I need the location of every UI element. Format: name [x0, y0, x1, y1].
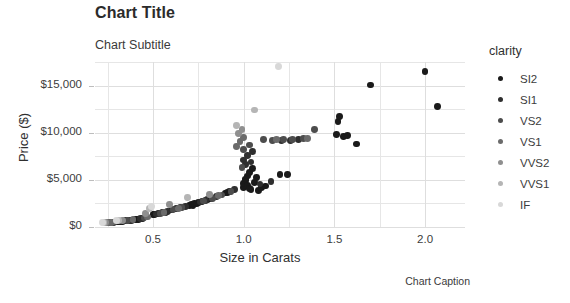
legend-item-si1[interactable]: SI1: [489, 89, 569, 110]
data-point: [353, 141, 360, 148]
legend-swatch-icon: [498, 139, 503, 144]
data-point: [113, 217, 120, 224]
data-point: [268, 178, 275, 185]
x-tick-label: 2.0: [403, 233, 447, 245]
gridline-horizontal: [95, 86, 465, 87]
legend-item-vs1[interactable]: VS1: [489, 131, 569, 152]
y-axis-label: Price ($): [16, 93, 31, 183]
data-point: [367, 82, 374, 89]
legend-item-label: SI1: [520, 94, 537, 106]
legend-swatch-icon: [498, 202, 503, 207]
legend-item-si2[interactable]: SI2: [489, 68, 569, 89]
x-tick-label: 1.5: [312, 233, 356, 245]
legend-swatch-icon: [498, 97, 503, 102]
data-point: [175, 205, 182, 212]
data-point: [280, 136, 287, 143]
data-point: [184, 194, 191, 201]
legend-swatch-icon: [498, 76, 503, 81]
data-point: [251, 107, 258, 114]
data-point: [249, 165, 256, 172]
data-point: [333, 131, 340, 138]
gridline-horizontal: [95, 180, 465, 181]
data-point: [289, 136, 296, 143]
scatter-chart: Chart Title Chart Subtitle Price ($) Siz…: [0, 0, 570, 303]
legend-item-vvs1[interactable]: VVS1: [489, 173, 569, 194]
data-point: [275, 63, 282, 70]
legend: clarity SI2SI1VS2VS1VVS2VVS1IF: [489, 44, 569, 215]
data-point: [246, 142, 253, 149]
data-point: [253, 174, 260, 181]
data-point: [284, 171, 291, 178]
gridline-vertical: [153, 62, 154, 227]
data-point: [304, 135, 311, 142]
data-point: [344, 132, 351, 139]
gridline-vertical-minor: [108, 62, 109, 227]
x-axis-label: Size in Carats: [165, 250, 355, 265]
gridline-vertical: [244, 62, 245, 227]
data-point: [228, 188, 235, 195]
data-point: [99, 219, 106, 226]
gridline-horizontal: [95, 133, 465, 134]
data-point: [422, 68, 429, 75]
data-point: [248, 186, 255, 193]
data-point: [233, 122, 240, 129]
legend-item-vs2[interactable]: VS2: [489, 110, 569, 131]
data-point: [336, 113, 343, 120]
gridline-vertical-minor: [289, 62, 290, 227]
gridline-horizontal-minor: [95, 109, 465, 110]
data-point: [277, 171, 284, 178]
chart-title: Chart Title: [95, 4, 175, 22]
data-point: [260, 136, 267, 143]
data-point: [215, 192, 222, 199]
y-tick-mark: [89, 227, 94, 228]
data-point: [166, 201, 173, 208]
gridline-vertical-minor: [380, 62, 381, 227]
y-tick-label: $10,000: [8, 125, 82, 137]
y-tick-mark: [89, 86, 94, 87]
y-tick-label: $5,000: [8, 172, 82, 184]
x-tick-label: 0.5: [131, 233, 175, 245]
legend-item-if[interactable]: IF: [489, 194, 569, 215]
y-tick-label: $0: [8, 219, 82, 231]
chart-caption: Chart Caption: [330, 275, 470, 287]
legend-swatch-icon: [498, 160, 503, 165]
gridline-horizontal-minor: [95, 156, 465, 157]
legend-item-label: VS2: [520, 115, 542, 127]
gridline-horizontal: [95, 227, 465, 228]
y-tick-label: $15,000: [8, 78, 82, 90]
legend-swatch-icon: [498, 181, 503, 186]
data-point: [148, 203, 155, 210]
chart-subtitle: Chart Subtitle: [95, 38, 171, 52]
gridline-vertical: [425, 62, 426, 227]
data-point: [239, 164, 246, 171]
legend-item-label: IF: [520, 199, 530, 211]
plot-area: [95, 62, 465, 227]
legend-items: SI2SI1VS2VS1VVS2VVS1IF: [489, 68, 569, 215]
data-point: [249, 148, 256, 155]
gridline-vertical: [334, 62, 335, 227]
data-point: [434, 103, 441, 110]
legend-item-vvs2[interactable]: VVS2: [489, 152, 569, 173]
y-tick-mark: [89, 180, 94, 181]
legend-title: clarity: [489, 44, 569, 58]
y-tick-mark: [89, 133, 94, 134]
legend-swatch-icon: [498, 118, 503, 123]
data-point: [206, 191, 213, 198]
data-point: [273, 136, 280, 143]
x-tick-label: 1.0: [222, 233, 266, 245]
legend-item-label: VVS1: [520, 178, 549, 190]
legend-item-label: VVS2: [520, 157, 549, 169]
legend-item-label: SI2: [520, 73, 537, 85]
legend-item-label: VS1: [520, 136, 542, 148]
